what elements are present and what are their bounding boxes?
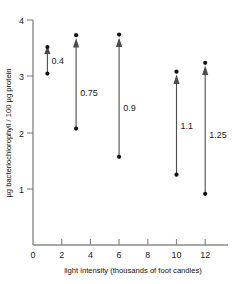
y-tick-label-2: 2 — [19, 129, 24, 139]
y-tick-label-4: 4 — [19, 16, 24, 26]
arrow-head-2 — [73, 38, 79, 48]
data-point-low-2 — [74, 127, 78, 131]
x-tick-label-12: 12 — [200, 250, 210, 260]
value-label-4: 1.1 — [181, 121, 194, 131]
y-axis-title: µg bacteriochlorophyll / 100 µg protein — [4, 68, 13, 197]
x-tick-label-10: 10 — [171, 250, 181, 260]
scatter-arrow-chart: 4 3 2 1 0 2 4 6 8 10 12 light intensity … — [0, 0, 237, 284]
arrow-head-5 — [202, 66, 208, 76]
x-tick-label-4: 4 — [88, 250, 93, 260]
x-axis-ticks — [62, 239, 206, 245]
y-tick-label-3: 3 — [19, 72, 24, 82]
y-axis-ticks — [27, 20, 33, 189]
value-label-1: 0.4 — [52, 56, 65, 66]
data-point-low-3 — [117, 155, 121, 159]
x-axis-title: light intensity (thousands of foot candl… — [64, 266, 202, 275]
x-tick-label-6: 6 — [117, 250, 122, 260]
x-axis-tick-labels: 0 2 4 6 8 10 12 — [30, 250, 210, 260]
y-tick-label-1: 1 — [19, 185, 24, 195]
axis-lines — [33, 20, 228, 245]
data-point-low-4 — [174, 173, 178, 177]
arrow-head-3 — [116, 38, 122, 48]
x-tick-label-8: 8 — [145, 250, 150, 260]
y-axis-tick-labels: 4 3 2 1 — [19, 16, 24, 195]
chart-figure: 4 3 2 1 0 2 4 6 8 10 12 light intensity … — [0, 0, 237, 284]
data-point-low-1 — [45, 72, 49, 76]
arrow-head-4 — [173, 75, 179, 85]
data-point-low-5 — [203, 192, 207, 196]
value-label-3: 0.9 — [123, 103, 136, 113]
data-point-high-5 — [203, 61, 207, 65]
value-label-2: 0.75 — [80, 88, 98, 98]
x-tick-label-2: 2 — [59, 250, 64, 260]
data-point-high-1 — [45, 45, 49, 49]
data-group-2: 0.75 — [73, 33, 98, 131]
data-group-5: 1.25 — [202, 61, 227, 196]
data-group-4: 1.1 — [173, 70, 193, 177]
data-point-high-4 — [174, 70, 178, 74]
data-group-1: 0.4 — [44, 45, 64, 76]
data-group-3: 0.9 — [116, 33, 136, 159]
x-tick-label-0: 0 — [30, 250, 35, 260]
value-label-5: 1.25 — [209, 130, 227, 140]
data-point-high-3 — [117, 33, 121, 37]
data-point-high-2 — [74, 33, 78, 37]
